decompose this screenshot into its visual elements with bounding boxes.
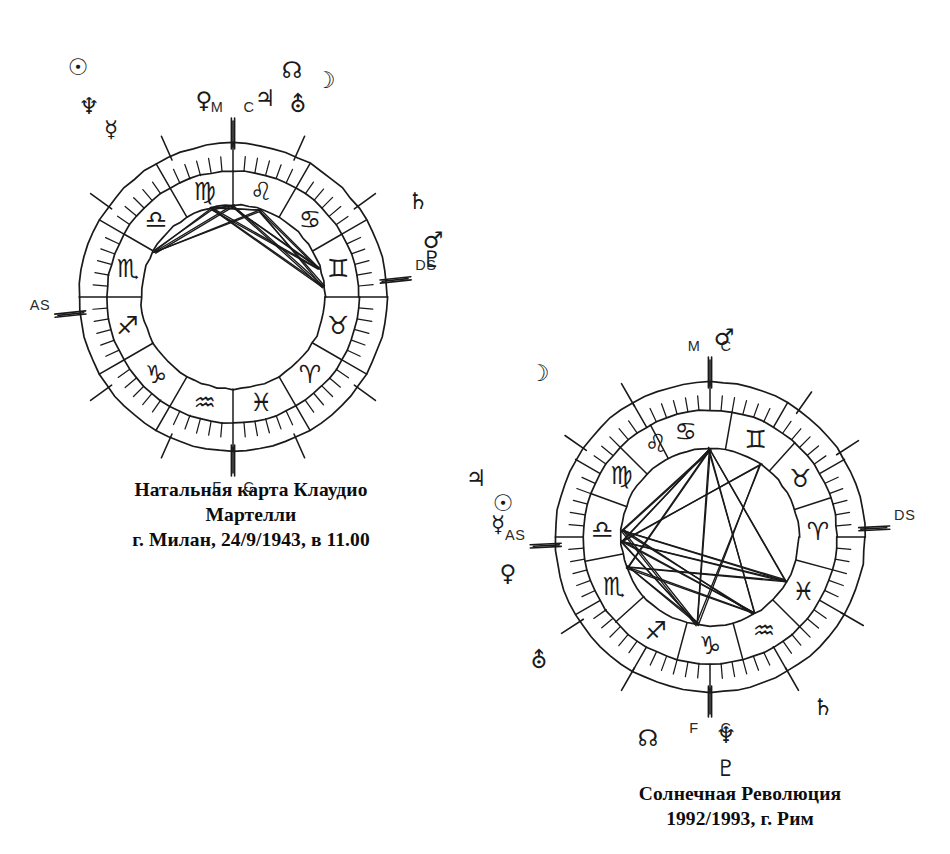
planet-glyphs: ☽♂♃☉☿♀⛢☊♆♇♄ [466,324,834,781]
degree-tick [276,165,281,178]
degree-tick [355,330,369,334]
degree-tick [359,285,373,286]
degree-tick [732,398,735,413]
aspect-line [627,568,754,613]
degree-tick [569,525,584,526]
degree-tick [754,404,759,417]
degree-tick [800,627,810,637]
planet-glyph-jupiter: ♃ [255,85,276,111]
degree-tick [125,207,136,217]
astrology-figure-page: ♍♌♋♊♉♈♓♒♑♐♏♎MCASDSFC☉♆☿♀♃☊⛢☽♄♂♇ Натальна… [0,0,950,854]
degree-tick [783,421,791,432]
degree-tick [814,456,826,464]
degree-tick [174,411,180,424]
mc-label-m: M [688,338,701,354]
degree-tick [156,406,170,430]
house-cusp-spoke [91,194,112,209]
degree-tick [106,350,119,356]
planet-glyph-mercury: ☿ [104,116,118,142]
degree-tick [266,419,270,433]
house-cusp-spoke [786,668,799,691]
degree-tick [314,189,324,200]
degree-tick [330,378,341,387]
degree-tick [134,198,144,208]
degree-tick [650,652,656,665]
ascendant-label: AS [505,527,526,543]
degree-tick [792,429,801,440]
degree-tick [197,161,201,175]
sign-glyph-virgo: ♍ [194,177,216,206]
degree-tick [732,662,735,676]
degree-tick [836,548,850,549]
degree-tick [347,350,360,356]
degree-tick [743,401,747,415]
degree-tick [143,394,152,405]
degree-tick [118,216,130,224]
house-cusp-spoke [622,668,635,691]
degree-tick [820,459,844,473]
sign-glyph-pisces: ♓ [250,388,272,417]
zodiac-sign-glyphs: ♍♌♋♊♉♈♓♒♑♐♏♎ [116,177,349,417]
degree-tick [153,400,161,412]
sign-glyph-leo: ♌ [250,177,272,206]
degree-tick [774,403,788,427]
degree-tick [829,580,843,585]
degree-tick [582,477,595,483]
sign-glyph-capricorn: ♑ [145,360,167,389]
degree-tick [573,500,587,504]
degree-tick [255,421,258,436]
sign-division-line [170,188,187,217]
planet-glyph-jupiter: ♃ [466,465,487,491]
degree-tick [244,157,245,172]
mc-label-m: M [211,99,224,115]
sign-division-line [170,377,187,406]
degree-tick [829,489,842,494]
sign-glyph-cancer: ♋ [674,417,696,446]
degree-tick [698,663,699,678]
degree-tick [576,459,601,473]
degree-tick [792,634,801,645]
sign-division-line [677,623,687,660]
sign-glyph-taurus: ♉ [789,464,811,493]
house-cusp-spoke [797,392,812,413]
house-cusp-spoke [354,385,375,400]
degree-tick [286,411,292,424]
degree-tick [209,158,212,173]
degree-tick [276,416,281,429]
degree-tick [342,360,366,374]
sign-glyph-aquarius: ♒ [753,616,775,645]
sign-division-line [725,412,732,449]
degree-tick [197,418,201,433]
house-cusp-spokes [533,360,887,714]
degree-tick [329,207,340,217]
planet-glyph-mars: ♂ [714,324,735,350]
degree-tick [619,634,628,645]
house-cusp-spoke [91,385,112,400]
degree-tick [322,197,332,207]
degree-tick [577,489,591,494]
degree-tick [156,164,170,188]
degree-tick [662,404,667,418]
natal-caption-line-3: г. Милан, 24/9/1943, в 11.00 [56,528,446,553]
planet-glyph-neptune: ♆ [79,93,100,119]
degree-tick [825,591,838,597]
degree-tick [255,158,258,173]
sign-division-line [279,377,296,406]
sign-glyph-gemini: ♊ [327,254,349,283]
degree-tick [351,249,364,254]
degree-tick [594,610,607,619]
planet-glyph-moon: ☽ [315,67,336,93]
sign-glyph-aquarius: ♒ [194,388,216,417]
sign-glyph-aries: ♈ [807,517,829,546]
degree-tick [153,182,161,194]
degree-tick [357,273,371,276]
degree-tick [569,548,584,549]
degree-tick [118,369,130,377]
degree-tick [347,238,360,244]
degree-tick [342,220,366,234]
degree-tick [221,422,222,436]
planet-glyph-pluto: ♇ [422,246,443,272]
degree-tick [98,261,112,265]
degree-tick [573,570,587,574]
degree-tick [764,652,770,665]
